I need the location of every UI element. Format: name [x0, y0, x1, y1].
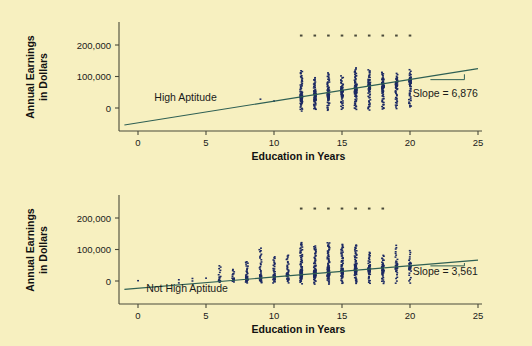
data-point: [247, 262, 249, 264]
data-point: [369, 99, 371, 101]
data-point: [355, 283, 357, 285]
x-axis-tick-label: 15: [337, 310, 348, 321]
data-point: [328, 97, 330, 99]
slope-annotation: Slope = 3,561: [413, 265, 478, 277]
data-point: [342, 105, 344, 107]
data-point: [341, 244, 343, 246]
data-point: [300, 105, 302, 107]
x-axis-tick-label: 25: [473, 137, 484, 148]
data-point: [301, 283, 303, 285]
data-point: [395, 245, 397, 247]
chart-panel-not-high-aptitude: 0100,000200,0000510152025Education in Ye…: [0, 173, 532, 346]
data-point: [354, 104, 356, 106]
data-point: [341, 255, 343, 257]
data-point: [382, 104, 384, 106]
data-point: [315, 97, 317, 99]
data-point: [288, 282, 290, 284]
data-point: [246, 281, 248, 283]
data-point: [218, 265, 220, 267]
data-point: [395, 254, 397, 256]
data-point: [368, 257, 370, 259]
data-point: [354, 71, 356, 73]
data-point: [327, 107, 329, 109]
data-point: [327, 242, 329, 244]
data-point: [409, 250, 411, 252]
data-point: [395, 86, 397, 88]
x-axis-tick-label: 15: [337, 137, 348, 148]
data-point: [354, 249, 356, 251]
data-point: [409, 256, 411, 258]
data-point: [232, 276, 234, 278]
data-point: [220, 276, 222, 278]
data-point: [341, 88, 343, 90]
data-point: [383, 98, 385, 100]
data-point: [342, 102, 344, 104]
data-point: [341, 269, 343, 271]
data-point: [342, 263, 344, 265]
data-point: [341, 96, 343, 98]
data-point: [368, 79, 370, 81]
data-point: [232, 273, 234, 275]
data-point: [382, 265, 384, 267]
data-point: [327, 81, 329, 83]
data-point: [381, 100, 383, 102]
data-point: [260, 264, 262, 266]
data-point: [355, 264, 357, 266]
data-point: [300, 70, 302, 72]
data-point: [328, 90, 330, 92]
top-coded-data-point: [354, 35, 357, 37]
data-point: [219, 270, 221, 272]
data-point: [369, 73, 371, 75]
data-point: [409, 269, 411, 271]
data-point: [315, 252, 317, 254]
data-point: [355, 276, 357, 278]
data-point: [313, 271, 315, 273]
data-point: [369, 93, 371, 95]
data-point: [382, 94, 384, 96]
data-point: [314, 81, 316, 83]
top-coded-data-point: [341, 208, 344, 210]
data-point: [273, 280, 275, 282]
data-point: [369, 105, 371, 107]
data-point: [355, 67, 357, 69]
data-point: [383, 283, 385, 285]
data-point: [301, 75, 303, 77]
top-coded-data-point: [300, 35, 303, 37]
data-point: [340, 82, 342, 84]
x-axis-tick-label: 5: [203, 137, 208, 148]
data-point: [272, 282, 274, 284]
data-point: [381, 86, 383, 88]
data-point: [340, 253, 342, 255]
data-point: [410, 100, 412, 102]
data-point: [409, 272, 411, 274]
x-axis-tick-label: 0: [135, 137, 140, 148]
data-point: [354, 255, 356, 257]
data-point: [383, 259, 385, 261]
data-point: [259, 268, 261, 270]
data-point: [381, 79, 383, 81]
data-point: [287, 272, 289, 274]
data-point: [272, 279, 274, 281]
y-axis-tick-label: 200,000: [77, 213, 111, 224]
y-axis-tick-label: 100,000: [77, 244, 111, 255]
data-point: [301, 254, 303, 256]
data-point: [328, 280, 330, 282]
data-point: [395, 251, 397, 253]
data-point: [300, 72, 302, 74]
data-point: [274, 279, 276, 281]
data-point: [383, 281, 385, 283]
data-point: [409, 90, 411, 92]
top-coded-data-point: [368, 35, 371, 37]
data-point: [288, 278, 290, 280]
data-point: [342, 77, 344, 79]
data-point: [300, 94, 302, 96]
y-axis-tick-label: 100,000: [77, 71, 111, 82]
data-point: [368, 266, 370, 268]
data-point: [301, 242, 303, 244]
data-point: [315, 255, 317, 257]
data-point: [409, 72, 411, 74]
top-coded-data-point: [341, 35, 344, 37]
data-point: [369, 264, 371, 266]
data-point: [410, 81, 412, 83]
data-point: [328, 78, 330, 80]
